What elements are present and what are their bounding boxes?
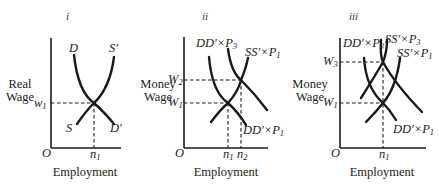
curve-label-dd-p1: DD′×P1 — [242, 123, 284, 138]
curve-label-dd-p1: DD′×P1 — [392, 122, 434, 137]
demand-curve-p1 — [209, 57, 246, 125]
origin-label: O — [175, 146, 184, 160]
origin-label: O — [331, 146, 340, 160]
curve-label-s-prime: S′ — [109, 41, 118, 55]
x-axis-label: Employment — [53, 165, 118, 179]
curve-label-d-prime: D′ — [109, 121, 122, 135]
curve-label-ss-p1: SS′×P1 — [245, 45, 281, 60]
x-axis-label: Employment — [350, 165, 415, 179]
wage-label-w1: w1 — [34, 96, 47, 111]
demand-curve — [74, 55, 114, 124]
wage-label-w2: W2 — [168, 72, 183, 87]
employment-label-n1: n1 — [223, 147, 234, 162]
panel-iii: iii Money Wage O Employment DD′×P3 SS′×P… — [292, 10, 434, 179]
panel-numeral: i — [66, 10, 69, 22]
curve-label-ss-p3: SS′×P3 — [385, 32, 421, 47]
y-axis-label-line1: Money — [292, 77, 328, 91]
origin-label: O — [42, 146, 51, 160]
y-axis-label-line2: Wage — [6, 90, 35, 104]
labor-market-diagrams: i Real Wage O Employment D S′ S D′ w1 n1… — [0, 0, 439, 186]
curve-label-d: D — [68, 41, 78, 55]
panel-i: i Real Wage O Employment D S′ S D′ w1 n1 — [6, 10, 122, 179]
wage-label-w1: W1 — [323, 95, 338, 110]
wage-label-w1: W1 — [168, 95, 183, 110]
panel-numeral: iii — [349, 10, 358, 22]
curve-label-s: S — [66, 121, 73, 135]
y-axis-label-line1: Real — [9, 77, 32, 91]
employment-label-n1: n1 — [379, 147, 390, 162]
curve-label-dd-p3: DD′×P3 — [342, 36, 384, 51]
panel-ii: ii Money Wage O Employment DD′×P3 SS′×P1… — [140, 10, 284, 179]
x-axis-label: Employment — [194, 165, 259, 179]
employment-label-n2: n2 — [237, 147, 248, 162]
wage-label-w3: W3 — [323, 54, 338, 69]
employment-label-n1: n1 — [90, 147, 101, 162]
panel-numeral: ii — [202, 10, 208, 22]
curve-label-ss-p1: SS′×P1 — [397, 46, 433, 61]
y-axis-label-line2: Wage — [296, 90, 325, 104]
curve-label-dd-p3: DD′×P3 — [195, 36, 237, 51]
